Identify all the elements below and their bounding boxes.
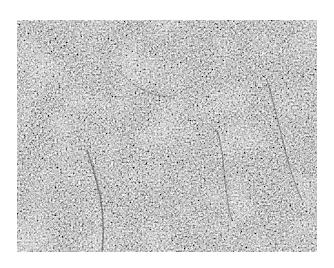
histology-micrograph [17,20,317,252]
tissue-texture [17,20,317,252]
bottom-margin [0,254,334,268]
